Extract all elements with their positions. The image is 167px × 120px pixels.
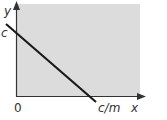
graph: y c 0 c/m x (0, 0, 167, 120)
x-axis-arrow-icon (137, 93, 146, 100)
x-axis-label: x (130, 101, 139, 115)
y-intercept-label: c (1, 26, 8, 40)
x-intercept-label: c/m (98, 101, 120, 115)
y-axis-label: y (3, 4, 12, 18)
origin-label: 0 (14, 101, 22, 115)
